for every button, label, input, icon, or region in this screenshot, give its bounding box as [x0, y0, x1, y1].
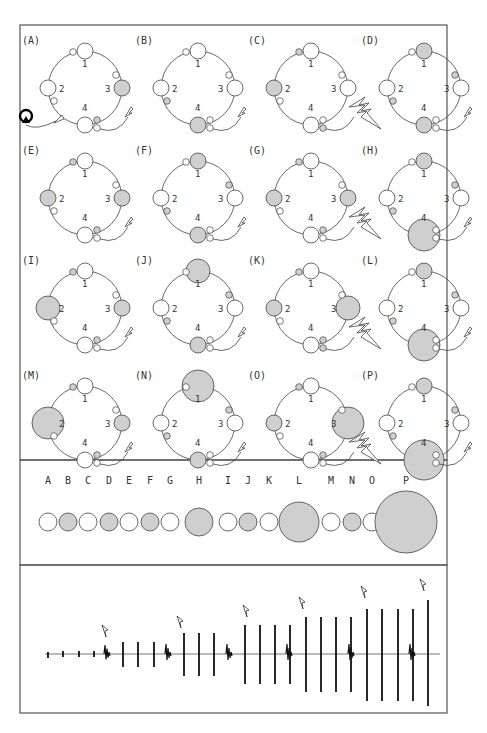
cell-3	[336, 296, 360, 320]
small-cell-d	[433, 227, 440, 234]
small-cell-a	[70, 269, 77, 276]
cell-number: 1	[82, 279, 87, 289]
small-cell-e	[94, 235, 101, 242]
small-cell-e	[320, 235, 327, 242]
cell-number: 4	[421, 103, 426, 113]
cell-2	[153, 80, 169, 96]
cell-2	[379, 80, 395, 96]
cell-number: 1	[421, 169, 426, 179]
stimulus-small-icon	[125, 327, 133, 337]
cell-number: 4	[195, 438, 200, 448]
ring-panel: (E)1234	[22, 145, 133, 243]
sequence-label: E	[126, 475, 132, 486]
cell-number: 4	[421, 438, 426, 448]
stim-lead	[100, 227, 128, 241]
cell-number: 4	[308, 323, 313, 333]
cell-number: 2	[59, 194, 64, 204]
cell-1	[416, 378, 432, 394]
small-cell-c	[339, 72, 346, 79]
sequence-cell	[343, 513, 361, 531]
cell-2	[266, 415, 282, 431]
cell-3	[114, 80, 130, 96]
cell-number: 3	[218, 304, 223, 314]
stimulus-marker-icon	[177, 616, 183, 628]
stim-lead	[326, 337, 354, 351]
cell-number: 3	[331, 194, 336, 204]
cell-number: 4	[308, 103, 313, 113]
cell-3	[227, 300, 243, 316]
cell-number: 3	[105, 194, 110, 204]
cell-number: 1	[195, 394, 200, 404]
ring-panel: (J)1234	[135, 255, 246, 353]
cell-number: 2	[59, 84, 64, 94]
small-cell-a	[70, 159, 77, 166]
sequence-cell	[239, 513, 257, 531]
small-cell-e	[320, 125, 327, 132]
small-cell-c	[226, 182, 233, 189]
small-cell-e	[207, 460, 214, 467]
cell-number: 4	[82, 213, 87, 223]
figure-canvas: (A)1234(B)1234(C)1234(D)1234(E)1234(F)12…	[0, 0, 487, 733]
small-cell-d	[94, 117, 101, 124]
small-cell-b	[277, 98, 284, 105]
small-cell-a	[409, 384, 416, 391]
stim-lead	[100, 117, 128, 131]
cell-2	[379, 415, 395, 431]
sequence-label: L	[296, 475, 302, 486]
cell-number: 1	[308, 394, 313, 404]
recorder-probe-icon	[54, 115, 64, 123]
small-cell-e	[207, 235, 214, 242]
small-cell-d	[320, 117, 327, 124]
cell-number: 4	[82, 438, 87, 448]
small-cell-e	[94, 345, 101, 352]
sequence-label: G	[167, 475, 173, 486]
small-cell-d	[320, 452, 327, 459]
cell-number: 4	[82, 103, 87, 113]
panel-label: (H)	[361, 145, 379, 156]
cell-4	[416, 117, 432, 133]
small-cell-e	[433, 345, 440, 352]
small-cell-d	[94, 452, 101, 459]
small-cell-b	[51, 98, 58, 105]
cell-3	[227, 415, 243, 431]
stim-lead	[213, 117, 241, 131]
small-cell-d	[433, 117, 440, 124]
small-cell-d	[207, 337, 214, 344]
sequence-cell	[161, 513, 179, 531]
cell-number: 4	[308, 438, 313, 448]
stimulus-marker-icon	[420, 579, 426, 591]
small-cell-e	[433, 235, 440, 242]
small-cell-b	[164, 208, 171, 215]
small-cell-d	[207, 227, 214, 234]
small-cell-e	[207, 125, 214, 132]
stim-lead	[100, 337, 128, 351]
small-cell-b	[390, 318, 397, 325]
stimulus-small-icon	[125, 442, 133, 452]
small-cell-c	[452, 407, 459, 414]
cell-4	[77, 227, 93, 243]
panel-label: (B)	[135, 35, 153, 46]
burst	[165, 644, 171, 660]
ring-panel: (I)1234	[22, 255, 133, 353]
cell-number: 1	[421, 279, 426, 289]
cell-4	[77, 452, 93, 468]
small-cell-c	[113, 182, 120, 189]
sequence-label: O	[369, 475, 375, 486]
sequence-label: F	[147, 475, 153, 486]
cell-1	[416, 263, 432, 279]
cell-3	[340, 190, 356, 206]
cell-1	[190, 153, 206, 169]
cell-number: 3	[444, 304, 449, 314]
burst	[226, 644, 232, 660]
cell-3	[453, 415, 469, 431]
recorder-arrow-icon	[22, 116, 30, 123]
cell-number: 2	[172, 84, 177, 94]
stim-lead	[326, 452, 354, 466]
cell-number: 2	[398, 84, 403, 94]
cell-4	[303, 117, 319, 133]
stimulus-small-icon	[125, 107, 133, 117]
cell-number: 2	[285, 194, 290, 204]
sequence-cell	[375, 491, 437, 553]
cell-1	[303, 43, 319, 59]
cell-4	[303, 227, 319, 243]
